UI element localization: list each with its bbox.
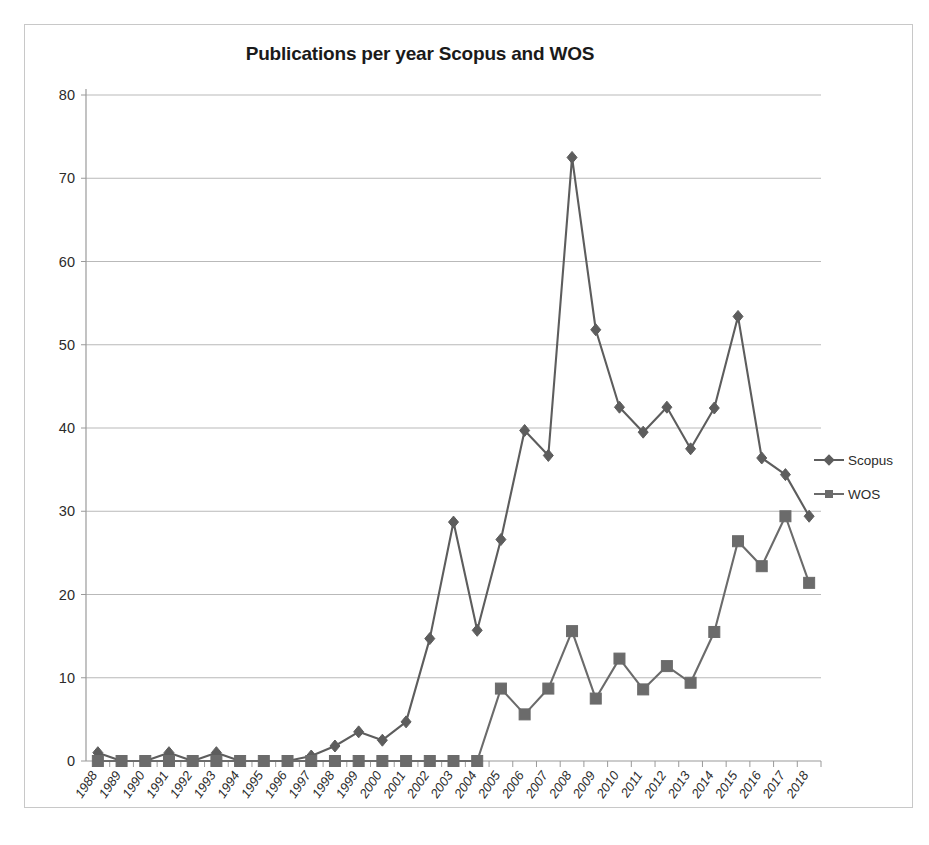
x-axis-tick-label: 2013 xyxy=(664,768,694,802)
data-point-marker xyxy=(733,536,744,547)
x-axis-tick-label: 1993 xyxy=(190,768,219,801)
x-axis-tick-label: 2008 xyxy=(545,768,575,802)
x-axis-tick-label: 1988 xyxy=(72,768,101,801)
x-axis-tick-label: 1991 xyxy=(143,768,172,800)
x-axis-tick-label: 1992 xyxy=(167,768,196,801)
data-point-marker xyxy=(235,756,246,767)
legend-key-scopus-icon xyxy=(814,453,844,467)
x-axis-tick-label: 2000 xyxy=(356,768,386,802)
y-axis-tick-labels: 01020304050607080 xyxy=(59,87,75,769)
series-wos xyxy=(92,511,814,767)
data-point-marker xyxy=(306,756,317,767)
y-axis-tick-label: 40 xyxy=(59,420,75,436)
data-point-marker xyxy=(425,633,435,645)
data-point-marker xyxy=(329,756,340,767)
x-axis-tick-label: 2011 xyxy=(617,768,646,800)
gridlines xyxy=(81,89,821,761)
data-point-marker xyxy=(449,516,459,528)
x-axis-tick-label: 1989 xyxy=(95,768,124,800)
x-axis-tick-label: 2004 xyxy=(451,768,480,801)
legend-label-wos: WOS xyxy=(848,487,880,502)
x-axis-tick-label: 2001 xyxy=(379,768,408,801)
x-axis-tick-label: 1994 xyxy=(214,768,243,800)
x-axis-tick-label: 2005 xyxy=(474,768,504,802)
legend-label-scopus: Scopus xyxy=(848,453,893,468)
x-axis-tick-label: 1995 xyxy=(238,768,267,801)
x-axis-tick-label: 2017 xyxy=(759,768,789,802)
x-axis-tick-label: 1996 xyxy=(261,768,290,801)
legend-item-wos[interactable]: WOS xyxy=(814,477,906,511)
x-axis-tick-label: 2012 xyxy=(640,768,670,802)
data-point-marker xyxy=(733,310,743,322)
x-axis-tick-labels: 1988198919901991199219931994199519961997… xyxy=(72,768,812,802)
data-point-marker xyxy=(353,756,364,767)
data-point-marker xyxy=(590,693,601,704)
data-series xyxy=(92,151,814,767)
y-axis-tick-label: 70 xyxy=(59,170,75,186)
x-axis-tick-label: 2002 xyxy=(403,768,433,802)
legend-item-scopus[interactable]: Scopus xyxy=(814,443,906,477)
data-point-marker xyxy=(140,756,151,767)
data-point-marker xyxy=(567,151,577,163)
data-point-marker xyxy=(496,534,506,546)
data-point-marker xyxy=(377,734,387,746)
data-point-marker xyxy=(92,756,103,767)
data-point-marker xyxy=(567,626,578,637)
data-point-marker xyxy=(211,756,222,767)
data-point-marker xyxy=(258,756,269,767)
x-axis-tick-label: 2016 xyxy=(735,768,765,802)
data-point-marker xyxy=(638,684,649,695)
y-axis-tick-label: 10 xyxy=(59,670,75,686)
data-point-marker xyxy=(614,653,625,664)
y-axis-tick-label: 60 xyxy=(59,254,75,270)
data-point-marker xyxy=(685,677,696,688)
x-axis-tick-label: 2018 xyxy=(782,768,812,802)
series-scopus xyxy=(93,151,814,767)
data-point-marker xyxy=(116,756,127,767)
data-point-marker xyxy=(757,452,767,464)
chart-container: Publications per year Scopus and WOS 010… xyxy=(24,24,913,808)
data-point-marker xyxy=(448,756,459,767)
y-axis-tick-label: 30 xyxy=(59,503,75,519)
legend-key-wos-icon xyxy=(814,487,844,501)
x-axis-tick-label: 1990 xyxy=(119,768,148,801)
data-point-marker xyxy=(804,577,815,588)
x-axis-tick-label: 2014 xyxy=(688,768,717,801)
data-point-marker xyxy=(401,756,412,767)
data-point-marker xyxy=(543,683,554,694)
x-axis-tick-label: 2007 xyxy=(522,768,552,802)
x-axis-tick-label: 2009 xyxy=(569,768,598,801)
x-axis-tick-label: 2015 xyxy=(711,768,741,802)
y-axis-tick-label: 20 xyxy=(59,587,75,603)
x-axis-tick-label: 1999 xyxy=(333,768,362,800)
data-point-marker xyxy=(472,624,482,636)
data-point-marker xyxy=(401,716,411,728)
data-point-marker xyxy=(756,561,767,572)
x-axis-tick-label: 1997 xyxy=(285,768,314,801)
y-axis-tick-label: 0 xyxy=(67,753,75,769)
chart-plot-area: 01020304050607080 1988198919901991199219… xyxy=(25,25,914,809)
data-point-marker xyxy=(163,756,174,767)
data-point-marker xyxy=(780,511,791,522)
data-point-marker xyxy=(591,324,601,336)
x-axis-tick-label: 1998 xyxy=(309,768,338,801)
chart-legend: Scopus WOS xyxy=(814,443,906,511)
data-point-marker xyxy=(354,726,364,738)
y-axis-tick-label: 50 xyxy=(59,337,75,353)
data-point-marker xyxy=(519,709,530,720)
data-point-marker xyxy=(187,756,198,767)
data-point-marker xyxy=(472,756,483,767)
x-axis-tick-label: 2003 xyxy=(427,768,457,802)
x-axis-tick-label: 2006 xyxy=(498,768,528,802)
y-axis-tick-label: 80 xyxy=(59,87,75,103)
data-point-marker xyxy=(495,683,506,694)
data-point-marker xyxy=(330,740,340,752)
data-point-marker xyxy=(377,756,388,767)
x-axis-tick-label: 2010 xyxy=(593,768,623,802)
data-point-marker xyxy=(661,661,672,672)
data-point-marker xyxy=(709,626,720,637)
data-point-marker xyxy=(282,756,293,767)
data-point-marker xyxy=(424,756,435,767)
